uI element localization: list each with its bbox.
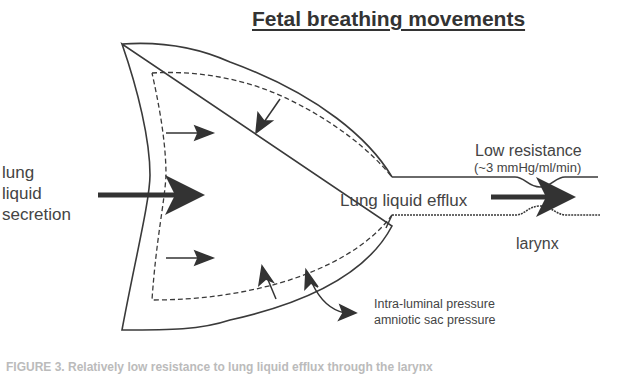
secretion-label: lung liquid secretion — [2, 162, 71, 225]
pressure-label: Intra-luminal pressure amniotic sac pres… — [374, 296, 496, 328]
figure-caption: FIGURE 3. Relatively low resistance to l… — [6, 361, 433, 373]
pressure-label-line1: Intra-luminal pressure — [374, 296, 496, 312]
pressure-label-line2: amniotic sac pressure — [374, 312, 496, 328]
resistance-value: (~3 mmHg/ml/min) — [474, 161, 581, 174]
diagram-title: Fetal breathing movements — [252, 8, 525, 29]
inner-lumen-boundary — [152, 72, 392, 300]
efflux-label: Lung liquid efflux — [340, 192, 467, 209]
airway-upper-wall — [392, 177, 598, 187]
secretion-label-line1: lung — [2, 162, 71, 183]
larynx-label: larynx — [516, 236, 559, 252]
secretion-label-line3: secretion — [2, 204, 71, 225]
secretion-label-line2: liquid — [2, 183, 71, 204]
resistance-label: Low resistance — [475, 143, 582, 159]
